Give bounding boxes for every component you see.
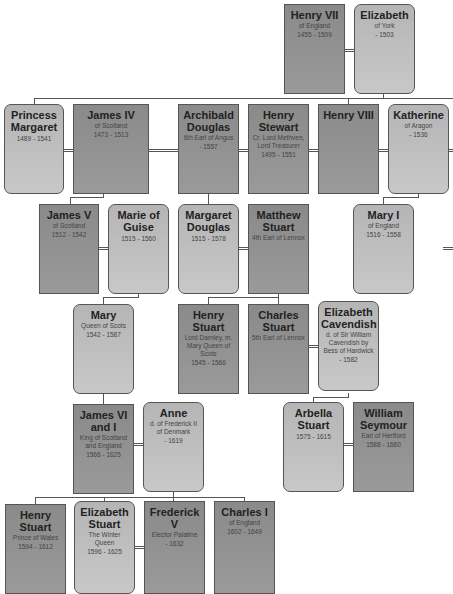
connector (383, 197, 419, 198)
person-anne-of-denmark[interactable]: Anned. of Frederick II of Denmark- 1619 (143, 402, 204, 492)
person-detail: of York (355, 22, 414, 30)
person-james-iv[interactable]: James IVof Scotland1473 - 1513 (73, 104, 149, 194)
person-henry-stewart[interactable]: Henry StewartCr. Lord Methven, Lord Trea… (248, 104, 309, 194)
person-name: Charles Stuart (249, 309, 308, 333)
person-years: 1512 - 1542 (40, 230, 98, 239)
person-years: 1455 - 1509 (285, 30, 344, 39)
person-henry-stuart-darnley[interactable]: Henry StuartLord Darnley, m. Mary Queen … (178, 304, 239, 394)
person-years: 1588 - 1660 (354, 440, 413, 449)
person-name: Frederick V (145, 506, 204, 530)
person-name: James IV (74, 109, 148, 121)
marriage-margaretd-matthew (238, 247, 248, 250)
person-matthew-stuart[interactable]: Matthew Stuart4th Earl of Lennox (248, 204, 309, 294)
marriage-mary1-right (443, 247, 453, 250)
person-henry-viii[interactable]: Henry VIII (318, 104, 379, 194)
connector (313, 397, 349, 398)
person-elizabeth-of-york[interactable]: Elizabethof York- 1503 (354, 4, 415, 94)
person-detail: 5th Earl of Lennox (249, 334, 308, 342)
connector (35, 497, 36, 504)
person-arbella-stuart[interactable]: Arbella Stuart1575 - 1615 (283, 402, 344, 492)
person-detail: of Aragon (389, 122, 448, 130)
person-charles-i[interactable]: Charles Iof England1602 - 1649 (214, 501, 275, 594)
person-name: Katherine (389, 109, 448, 121)
person-name: Marie of Guise (109, 209, 168, 233)
person-name: Mary I (354, 209, 413, 221)
person-detail: of England (215, 519, 274, 527)
connector (35, 497, 245, 498)
person-william-seymour[interactable]: William SeymourEarl of Hertford1588 - 16… (353, 402, 414, 492)
connector (208, 297, 279, 298)
person-frederick-v[interactable]: Frederick VElector Palatine- 1632 (144, 501, 205, 594)
connector (208, 193, 209, 204)
person-years: 1489 - 1541 (5, 134, 63, 143)
marriage-stewart-henry8 (308, 149, 318, 152)
person-name: Arbella Stuart (284, 407, 343, 431)
person-detail: 6th Earl of Angus (179, 134, 238, 142)
person-years: - 1619 (144, 436, 203, 445)
person-name: Margaret Douglas (179, 209, 238, 233)
person-name: Henry Stewart (249, 109, 308, 133)
person-name: Henry Stuart (6, 509, 65, 533)
person-henry-vii[interactable]: Henry VIIof England1455 - 1509 (284, 4, 345, 94)
person-detail: Lord Darnley, m. Mary Queen of Scots (179, 334, 238, 358)
person-detail: of England (354, 222, 413, 230)
person-years: 1516 - 1558 (354, 230, 413, 239)
person-name: William Seymour (354, 407, 413, 431)
person-marie-of-guise[interactable]: Marie of Guise1515 - 1560 (108, 204, 169, 294)
person-elizabeth-stuart[interactable]: Elizabeth StuartThe Winter Queen1596 - 1… (74, 501, 135, 594)
person-years: - 1582 (319, 355, 378, 364)
marriage-archibald-stewart (238, 149, 248, 152)
person-detail: Earl of Hertford (354, 432, 413, 440)
person-years: 1495 - 1551 (249, 150, 308, 159)
person-mary-i[interactable]: Mary Iof England1516 - 1558 (353, 204, 414, 294)
person-detail: of Scotland (40, 222, 98, 230)
person-years: - 1632 (145, 539, 204, 548)
person-name: James V (40, 209, 98, 221)
connector (103, 297, 139, 298)
connector (278, 297, 279, 304)
marriage-james5-marie (98, 247, 108, 250)
person-james-vi-and-i[interactable]: James VI and IKing of Scotland and Engla… (73, 404, 134, 494)
person-years: 1594 - 1612 (6, 542, 65, 551)
person-name: Elizabeth (355, 9, 414, 21)
marriage-james6-anne (133, 443, 143, 446)
marriage-james4-archibald (148, 149, 178, 152)
person-name: Archibald Douglas (179, 109, 238, 133)
person-archibald-douglas[interactable]: Archibald Douglas6th Earl of Angus- 1557 (178, 104, 239, 194)
person-name: Mary (74, 309, 133, 321)
person-detail: d. of Frederick II of Denmark (144, 420, 203, 436)
person-princess-margaret[interactable]: Princess Margaret1489 - 1541 (4, 104, 64, 194)
person-name: Princess Margaret (5, 109, 63, 133)
person-years: - 1503 (355, 30, 414, 39)
marriage-elizstuart-frederick (134, 546, 144, 549)
person-years: 1566 - 1625 (74, 450, 133, 459)
person-charles-stuart[interactable]: Charles Stuart5th Earl of Lennox (248, 304, 309, 394)
marriage-margaret-james4 (63, 149, 73, 152)
person-james-v[interactable]: James Vof Scotland1512 - 1542 (39, 204, 99, 294)
person-name: James VI and I (74, 409, 133, 433)
person-name: Elizabeth Stuart (75, 506, 134, 530)
connector (34, 98, 453, 99)
person-detail: Queen of Scots (74, 322, 133, 330)
person-years: - 1536 (389, 130, 448, 139)
person-mary-queen-of-scots[interactable]: MaryQueen of Scots1542 - 1587 (73, 304, 134, 394)
connector (70, 197, 71, 204)
person-katherine-of-aragon[interactable]: Katherineof Aragon- 1536 (388, 104, 449, 194)
person-elizabeth-cavendish[interactable]: Elizabeth Cavendishd. of Sir William Cav… (318, 301, 379, 391)
person-years: 1575 - 1615 (284, 432, 343, 441)
marriage-arbella-seymour (343, 443, 353, 446)
person-name: Henry VII (285, 9, 344, 21)
marriage-henry8-katherine (378, 149, 388, 152)
person-name: Anne (144, 407, 203, 419)
person-detail: Elector Palatine (145, 531, 204, 539)
person-henry-prince-of-wales[interactable]: Henry StuartPrince of Wales1594 - 1612 (5, 504, 66, 594)
person-years: 1545 - 1566 (179, 358, 238, 367)
person-detail: The Winter Queen (75, 531, 134, 547)
person-years: 1515 - 1560 (109, 234, 168, 243)
connector (103, 297, 104, 304)
person-years: 1515 - 1578 (179, 234, 238, 243)
person-name: Elizabeth Cavendish (319, 306, 378, 330)
person-years: 1602 - 1649 (215, 527, 274, 536)
person-name: Matthew Stuart (249, 209, 308, 233)
person-margaret-douglas[interactable]: Margaret Douglas1515 - 1578 (178, 204, 239, 294)
